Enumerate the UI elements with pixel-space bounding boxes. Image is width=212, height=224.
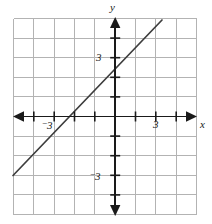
x-tick-pos3-digits: 3	[153, 118, 159, 130]
x-axis-left-arrowhead	[13, 111, 24, 121]
x-tick-neg3-digits: 3	[47, 119, 53, 131]
coordinate-plane-figure: −3 3 3 −3 x y	[0, 0, 212, 224]
y-tick-pos3-digits: 3	[96, 51, 102, 63]
x-axis-right-arrowhead	[186, 111, 197, 121]
graph-canvas	[0, 0, 212, 224]
y-tick-label-neg3: −3	[90, 170, 101, 182]
x-axis-name-label: x	[200, 119, 205, 130]
y-axis-name-label: y	[110, 2, 115, 13]
x-tick-label-neg3: −3	[42, 119, 53, 131]
y-tick-label-pos3: 3	[96, 52, 102, 63]
y-tick-neg3-digits: 3	[95, 170, 101, 182]
plotted-line	[13, 20, 162, 176]
x-axis	[13, 111, 197, 121]
x-tick-label-pos3: 3	[153, 119, 159, 130]
